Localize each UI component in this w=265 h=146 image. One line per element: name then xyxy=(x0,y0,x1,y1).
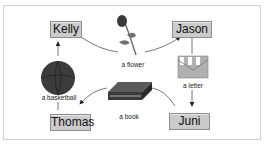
book-icon xyxy=(108,82,152,100)
connector-book-thomas xyxy=(80,88,107,104)
label-basketball: a basketball xyxy=(38,94,80,101)
label-flower: a flower xyxy=(118,61,148,68)
person-jason: Jason xyxy=(172,21,212,38)
connector-juni-book xyxy=(152,88,175,106)
person-kelly: Kelly xyxy=(50,21,82,38)
connector-flower-jason xyxy=(145,37,180,52)
connector-kelly-flower xyxy=(81,37,118,52)
person-juni: Juni xyxy=(169,113,210,130)
envelope-icon xyxy=(178,56,208,78)
basketball-icon xyxy=(41,61,75,95)
gift-cycle-diagram xyxy=(0,0,265,146)
person-thomas: Thomas xyxy=(50,114,91,131)
label-book: a book xyxy=(116,113,142,120)
flower-icon xyxy=(117,15,136,55)
label-letter: a letter xyxy=(178,82,208,89)
